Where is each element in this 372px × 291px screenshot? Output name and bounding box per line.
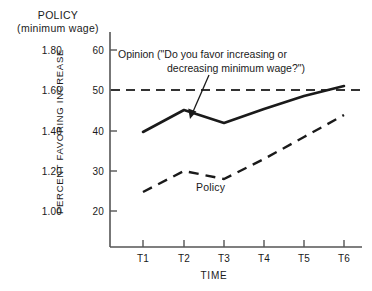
policy-series-label: Policy bbox=[196, 181, 225, 193]
x-tick-label-t4: T4 bbox=[252, 253, 276, 264]
plot-canvas bbox=[0, 0, 372, 291]
opinion-annotation-line1: Opinion ("Do you favor increasing or bbox=[118, 48, 354, 62]
x-tick-label-t2: T2 bbox=[172, 253, 196, 264]
x-axis-ticks bbox=[143, 240, 344, 247]
opinion-annotation-arrow bbox=[188, 75, 209, 119]
series-policy-line bbox=[143, 115, 344, 192]
x-axis-title-text: TIME bbox=[200, 270, 227, 281]
x-tick-label-t5: T5 bbox=[292, 253, 316, 264]
x-axis-title: TIME bbox=[0, 270, 372, 281]
y-axis-ticks bbox=[110, 50, 117, 211]
chart-figure: POLICY (minimum wage) 1.80 1.60 1.40 1.2… bbox=[0, 0, 372, 291]
x-tick-label-t3: T3 bbox=[212, 253, 236, 264]
opinion-annotation-line2: decreasing minimum wage?") bbox=[118, 62, 354, 76]
series-opinion-line bbox=[143, 86, 344, 132]
opinion-arrow-shaft bbox=[192, 75, 209, 114]
x-tick-label-t1: T1 bbox=[131, 253, 155, 264]
x-tick-label-t6: T6 bbox=[332, 253, 356, 264]
opinion-annotation: Opinion ("Do you favor increasing or dec… bbox=[118, 48, 354, 75]
